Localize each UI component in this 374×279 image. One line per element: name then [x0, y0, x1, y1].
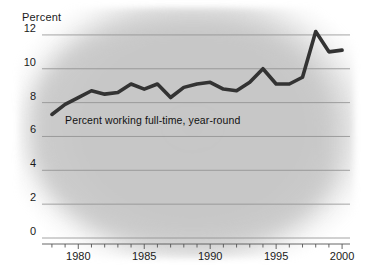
y-tick-label: 12 — [14, 22, 36, 34]
y-tick-label: 6 — [14, 123, 36, 135]
series-annotation: Percent working full-time, year-round — [65, 114, 240, 126]
plot-area — [0, 0, 374, 279]
y-tick-label: 0 — [14, 225, 36, 237]
gridlines — [42, 35, 350, 238]
series-line — [52, 32, 342, 115]
chart-container: Percent 024681012 19801985199019952000 P… — [0, 0, 374, 279]
y-tick-label: 2 — [14, 191, 36, 203]
x-axis — [42, 244, 350, 249]
x-tick-label: 1990 — [193, 250, 227, 262]
y-tick-label: 4 — [14, 157, 36, 169]
y-tick-label: 10 — [14, 56, 36, 68]
x-tick-label: 1995 — [259, 250, 293, 262]
x-tick-label: 2000 — [325, 250, 359, 262]
y-tick-label: 8 — [14, 90, 36, 102]
series-layer — [52, 32, 342, 115]
x-tick-label: 1985 — [127, 250, 161, 262]
x-tick-label: 1980 — [61, 250, 95, 262]
